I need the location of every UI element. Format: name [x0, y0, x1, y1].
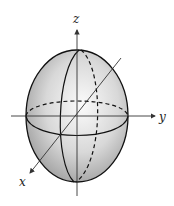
x-axis-label: x — [19, 175, 26, 189]
z-axis-label: z — [72, 12, 80, 26]
y-axis-label: y — [158, 110, 166, 124]
ellipsoid-diagram: z y x — [0, 0, 174, 206]
